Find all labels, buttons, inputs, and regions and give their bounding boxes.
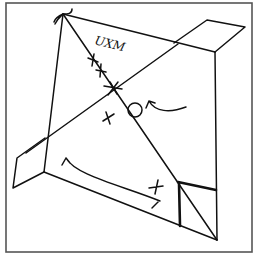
arrow-tail [152,202,158,208]
flap-left [13,138,45,188]
curved-arrow-bottom-icon [62,158,160,201]
handwritten-label: UXM [93,33,127,54]
corner-square [178,182,216,226]
sketch-canvas: UXM [0,0,259,256]
curved-arrow-right-icon [146,101,186,111]
cross-mark-bottom [149,180,163,194]
flap-top-right [174,20,245,52]
cross-mark-center [103,112,114,124]
sheet-outline [44,14,217,240]
circle-mark [128,103,142,117]
